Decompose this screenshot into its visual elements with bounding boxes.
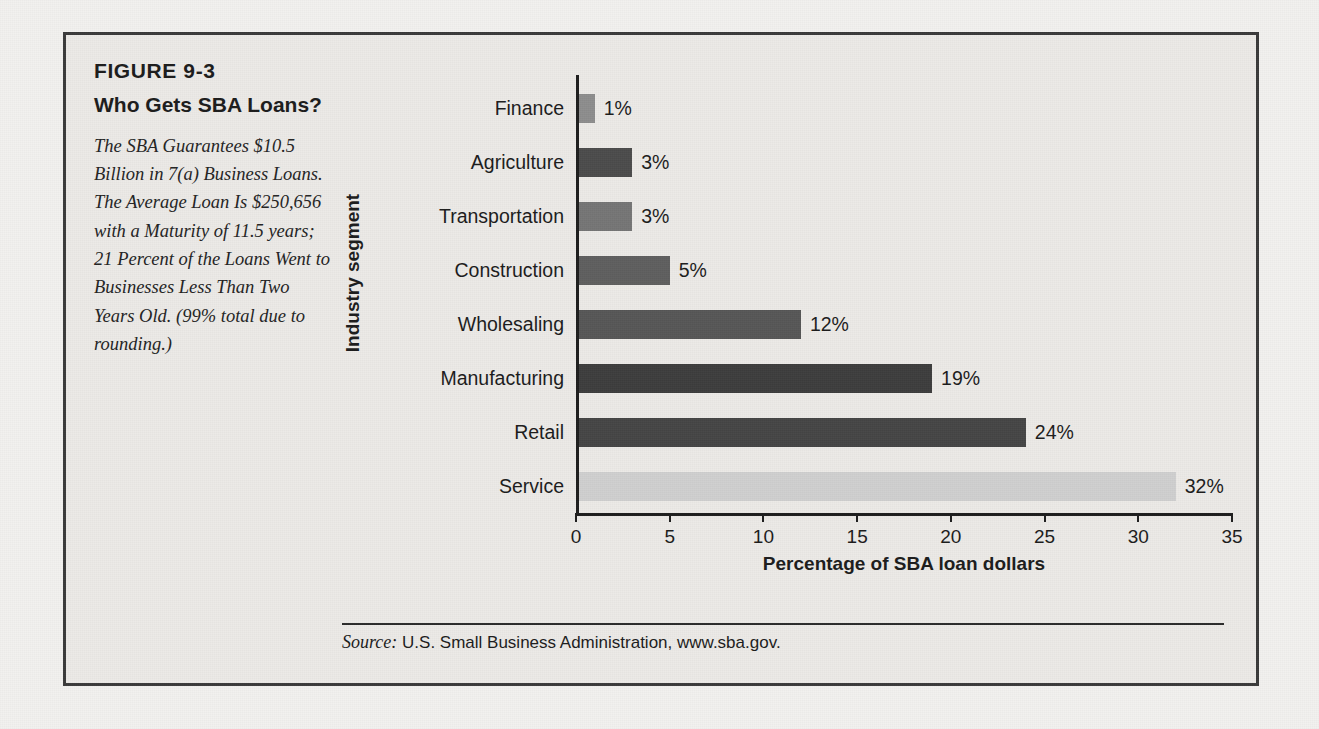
x-axis-tick <box>856 513 858 522</box>
bar-row: Retail24% <box>376 405 1232 459</box>
x-axis-tick-label: 0 <box>571 526 582 548</box>
bar <box>576 148 632 177</box>
bar-chart: Industry segment Finance1%Agriculture3%T… <box>342 53 1232 593</box>
bar-row: Agriculture3% <box>376 135 1232 189</box>
bar-row: Construction5% <box>376 243 1232 297</box>
bar-track: 5% <box>576 243 1232 297</box>
bar-track: 3% <box>576 135 1232 189</box>
x-axis-line <box>576 513 1232 516</box>
bar <box>576 472 1176 501</box>
bar-category-label: Finance <box>376 97 576 120</box>
bar-value-label: 3% <box>641 205 669 228</box>
x-axis-tick-label: 20 <box>940 526 961 548</box>
bar-category-label: Service <box>376 475 576 498</box>
y-axis-title-label: Industry segment <box>342 194 364 352</box>
bar-track: 1% <box>576 81 1232 135</box>
bar <box>576 364 932 393</box>
x-axis-tick-label: 25 <box>1034 526 1055 548</box>
bar-category-label: Wholesaling <box>376 313 576 336</box>
bar-track: 32% <box>576 459 1232 513</box>
x-axis-tick <box>950 513 952 522</box>
bar-track: 12% <box>576 297 1232 351</box>
bars-container: Finance1%Agriculture3%Transportation3%Co… <box>376 81 1232 513</box>
bar <box>576 310 801 339</box>
bar-row: Transportation3% <box>376 189 1232 243</box>
figure-title: Who Gets SBA Loans? <box>94 90 332 120</box>
bar-value-label: 32% <box>1185 475 1224 498</box>
bar-value-label: 1% <box>604 97 632 120</box>
source-label: Source: <box>342 632 397 652</box>
bar-value-label: 12% <box>810 313 849 336</box>
bar-category-label: Manufacturing <box>376 367 576 390</box>
source-divider <box>342 623 1224 625</box>
x-axis-tick-label: 35 <box>1221 526 1242 548</box>
bar <box>576 418 1026 447</box>
bar-row: Finance1% <box>376 81 1232 135</box>
plot-area: Finance1%Agriculture3%Transportation3%Co… <box>376 81 1232 513</box>
x-axis-tick <box>669 513 671 522</box>
x-axis-tick-label: 15 <box>847 526 868 548</box>
bar <box>576 256 670 285</box>
figure-caption-column: FIGURE 9-3 Who Gets SBA Loans? The SBA G… <box>94 59 332 358</box>
bar <box>576 202 632 231</box>
bar-track: 19% <box>576 351 1232 405</box>
figure-description: The SBA Guarantees $10.5 Billion in 7(a)… <box>94 132 332 358</box>
x-axis-tick <box>575 513 577 522</box>
bar-track: 24% <box>576 405 1232 459</box>
bar-category-label: Transportation <box>376 205 576 228</box>
x-axis-tick-label: 5 <box>664 526 675 548</box>
bar-row: Wholesaling12% <box>376 297 1232 351</box>
figure-frame: FIGURE 9-3 Who Gets SBA Loans? The SBA G… <box>63 32 1259 686</box>
x-axis-tick <box>762 513 764 522</box>
bar-category-label: Construction <box>376 259 576 282</box>
x-axis-tick-label: 10 <box>753 526 774 548</box>
bar-track: 3% <box>576 189 1232 243</box>
x-axis-title: Percentage of SBA loan dollars <box>576 553 1232 575</box>
figure-number: FIGURE 9-3 <box>94 59 332 83</box>
x-axis-tick <box>1044 513 1046 522</box>
bar-value-label: 5% <box>679 259 707 282</box>
x-axis-tick <box>1137 513 1139 522</box>
source-note: Source: U.S. Small Business Administrati… <box>342 632 781 653</box>
bar-category-label: Retail <box>376 421 576 444</box>
x-axis: 05101520253035 <box>576 513 1232 514</box>
y-axis-title: Industry segment <box>336 53 370 493</box>
x-axis-tick <box>1231 513 1233 522</box>
bar-row: Manufacturing19% <box>376 351 1232 405</box>
y-axis-line <box>576 75 579 513</box>
bar-category-label: Agriculture <box>376 151 576 174</box>
bar-value-label: 19% <box>941 367 980 390</box>
bar-value-label: 24% <box>1035 421 1074 444</box>
source-text: U.S. Small Business Administration, www.… <box>402 633 781 652</box>
bar-row: Service32% <box>376 459 1232 513</box>
bar-value-label: 3% <box>641 151 669 174</box>
x-axis-tick-label: 30 <box>1128 526 1149 548</box>
